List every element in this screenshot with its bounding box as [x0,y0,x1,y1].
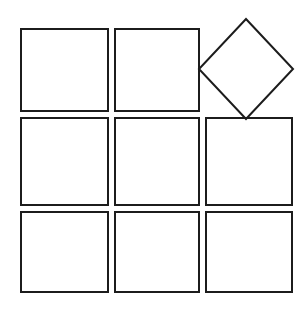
canvas-background [0,0,306,313]
figure-canvas: Square row 1 column 1Square row 1 column… [0,0,306,313]
shape-grid-svg: Square row 1 column 1Square row 1 column… [0,0,306,313]
